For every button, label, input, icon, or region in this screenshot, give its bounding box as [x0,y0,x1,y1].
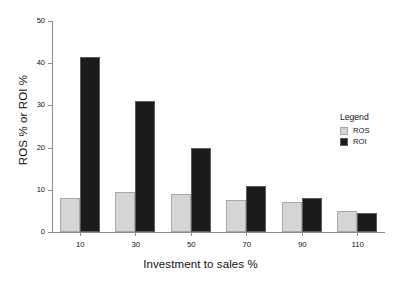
bar-roi-10 [80,57,100,232]
legend-item-ros[interactable]: ROS [340,126,398,135]
y-axis-tick: 40 [48,63,52,64]
x-axis-tick-label: 70 [242,240,251,250]
legend-label: ROI [353,137,367,146]
bar-roi-30 [135,101,155,232]
x-axis-tick: 110 [357,232,358,236]
y-axis-tick-label: 10 [37,185,45,194]
y-axis-title: ROS % or ROI % [17,50,29,190]
legend-swatch-ros-icon [340,127,348,135]
legend-swatch-roi-icon [340,138,348,146]
legend-title: Legend [340,112,398,123]
legend-label: ROS [353,126,369,135]
y-axis-tick: 0 [48,232,52,233]
y-axis-tick: 20 [48,148,52,149]
bar-roi-50 [191,148,211,232]
y-axis-tick: 30 [48,105,52,106]
legend-entries: ROSROI [340,126,398,146]
x-axis-tick-label: 50 [187,240,196,250]
bar-ros-30 [115,192,135,232]
y-axis-tick: 10 [48,190,52,191]
x-axis-tick: 90 [302,232,303,236]
y-axis-line [52,21,53,232]
bar-roi-70 [246,186,266,232]
x-axis-tick: 30 [135,232,136,236]
bar-ros-50 [171,194,191,232]
bar-roi-110 [357,213,377,232]
x-axis-title: Investment to sales % [0,258,401,270]
bar-ros-70 [226,200,246,232]
x-axis-tick-label: 10 [76,240,85,250]
x-axis-tick: 70 [246,232,247,236]
bar-ros-10 [60,198,80,232]
legend: Legend ROSROI [340,112,398,148]
y-axis-tick-label: 40 [37,58,45,67]
bar-ros-90 [282,202,302,232]
plot-area: 01020304050 1030507090110 [52,21,385,232]
bar-chart: ROS % or ROI % 01020304050 1030507090110… [0,0,401,284]
x-axis-tick: 50 [191,232,192,236]
x-axis-tick: 10 [80,232,81,236]
x-axis-tick-label: 110 [352,240,364,250]
y-axis-tick-label: 0 [41,227,45,236]
bar-roi-90 [302,198,322,232]
y-axis-tick-label: 20 [37,143,45,152]
y-axis-tick: 50 [48,21,52,22]
bar-ros-110 [337,211,357,232]
legend-item-roi[interactable]: ROI [340,137,398,146]
x-axis-tick-label: 30 [131,240,140,250]
x-axis-tick-label: 90 [298,240,307,250]
y-axis-tick-label: 30 [37,100,45,109]
x-axis-line [52,232,385,233]
y-axis-tick-label: 50 [37,16,45,25]
